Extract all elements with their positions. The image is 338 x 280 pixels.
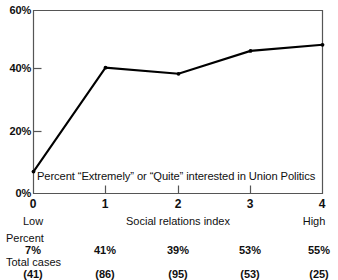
table-cell-cases-2: (95) [153,268,203,280]
table-cell-cases-0: (41) [8,268,58,280]
table-cell-percent-2: 39% [153,244,203,256]
y-axis-ticks [34,69,42,132]
x-tick-label-2: 2 [163,198,193,210]
x-tick-label-0: 0 [18,198,48,210]
x-axis-title: Social relations index [88,215,268,227]
x-axis-ticks [106,186,251,194]
table-cell-cases-1: (86) [80,268,130,280]
x-tick-label-4: 4 [307,198,337,210]
table-cell-percent-3: 53% [225,244,275,256]
y-tick-label-40: 40% [3,63,31,74]
table-cell-cases-4: (25) [294,268,338,280]
data-series-line [34,45,323,172]
x-axis-low-label: Low [11,215,55,227]
x-tick-label-3: 3 [235,198,265,210]
axis-frame [34,11,323,194]
chart-caption: Percent “Extremely” or “Quite” intereste… [37,170,315,183]
y-tick-label-20: 20% [3,126,31,137]
y-tick-label-60: 60% [3,5,31,16]
table-cell-percent-0: 7% [8,244,58,256]
x-axis-high-label: High [292,215,336,227]
table-cell-percent-1: 41% [80,244,130,256]
data-point-markers [32,43,325,174]
table-cell-cases-3: (53) [225,268,275,280]
x-tick-label-1: 1 [90,198,120,210]
table-row-label-total-cases: Total cases [6,256,61,268]
table-row-label-percent: Percent [6,232,44,244]
table-cell-percent-4: 55% [294,244,338,256]
